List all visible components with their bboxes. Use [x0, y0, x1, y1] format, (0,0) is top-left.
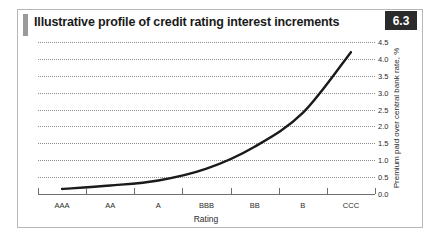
- y-axis-tick-label: 2.5: [378, 105, 388, 114]
- x-axis-tick-label: AAA: [55, 201, 70, 210]
- x-axis-endcap: [38, 188, 39, 194]
- y-axis-tick-label: 2.0: [378, 122, 388, 131]
- x-axis-line: [38, 194, 375, 195]
- figure-container: Illustrative profile of credit rating in…: [17, 9, 423, 228]
- x-axis-tick-label: CCC: [343, 201, 359, 210]
- y-axis-tick-label: 1.0: [378, 156, 388, 165]
- x-axis-endcap: [375, 188, 376, 194]
- x-axis-tick: [327, 188, 328, 194]
- y-axis-title: Premium paid over central bank rate, %: [392, 48, 401, 189]
- y-axis-tick-label: 3.0: [378, 88, 388, 97]
- figure-number-badge: 6.3: [385, 11, 417, 30]
- page-title: Illustrative profile of credit rating in…: [34, 15, 339, 29]
- y-axis-tick-label: 1.5: [378, 139, 388, 148]
- series-line-chart: [38, 42, 375, 194]
- series-line: [62, 52, 351, 189]
- x-axis-tick-label: B: [300, 201, 305, 210]
- x-axis-tick-label: AA: [105, 201, 115, 210]
- x-axis-tick: [231, 188, 232, 194]
- x-axis-tick: [279, 188, 280, 194]
- x-axis-tick: [86, 188, 87, 194]
- title-accent-bar: [23, 14, 28, 36]
- x-axis-tick-label: BB: [250, 201, 260, 210]
- x-axis-tick: [134, 188, 135, 194]
- x-axis-tick-label: A: [156, 201, 161, 210]
- y-axis-tick-label: 0.5: [378, 173, 388, 182]
- y-axis-tick-label: 4.5: [378, 38, 388, 47]
- x-axis-tick: [182, 188, 183, 194]
- x-axis-title: Rating: [194, 214, 219, 224]
- x-axis-tick-label: BBB: [199, 201, 214, 210]
- y-axis-tick-label: 0.0: [378, 190, 388, 199]
- y-axis-tick-label: 4.0: [378, 54, 388, 63]
- figure-header: Illustrative profile of credit rating in…: [18, 10, 422, 40]
- y-axis-tick-label: 3.5: [378, 71, 388, 80]
